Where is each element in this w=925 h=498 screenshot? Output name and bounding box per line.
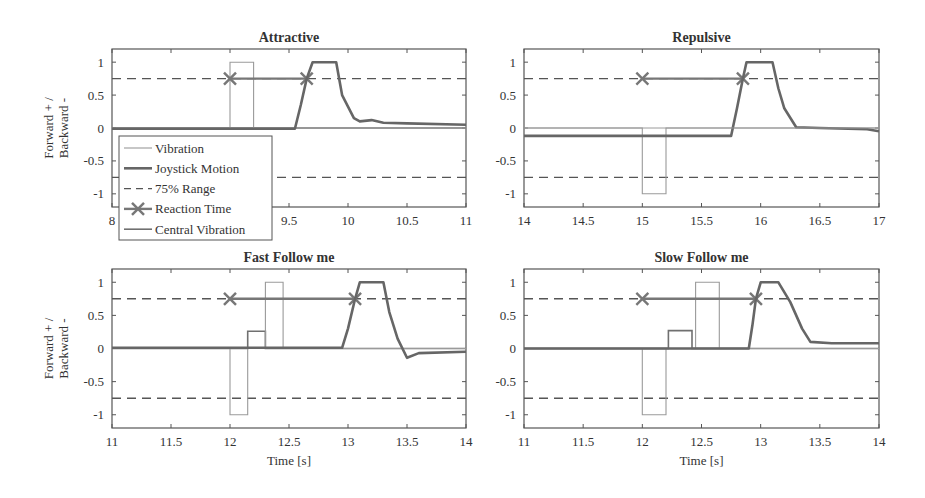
x-tick-label: 13.5 — [396, 434, 419, 449]
y-tick-label: 0 — [510, 341, 517, 356]
y-tick-label: -1 — [505, 407, 516, 422]
x-tick-label: 17 — [873, 213, 887, 228]
y-axis-label: Forward + /Backward - — [41, 317, 71, 379]
y-tick-label: 0.5 — [500, 88, 516, 103]
legend-item-label: Joystick Motion — [155, 161, 240, 176]
x-tick-label: 13.5 — [808, 434, 831, 449]
x-tick-label: 12 — [636, 434, 649, 449]
y-tick-label: -1 — [93, 186, 104, 201]
subplot-repulsive: Repulsive1414.51515.51616.51710.50-0.5-1 — [495, 30, 886, 228]
y-tick-label: -0.5 — [83, 153, 104, 168]
y-tick-label: 0.5 — [88, 88, 104, 103]
x-tick-label: 13 — [754, 434, 767, 449]
subplot-title: Repulsive — [672, 30, 730, 45]
x-axis-label: Time [s] — [267, 453, 311, 468]
y-tick-label: 1 — [98, 55, 105, 70]
y-tick-label: 0.5 — [88, 308, 104, 323]
x-tick-label: 14 — [873, 434, 887, 449]
y-tick-label: 1 — [98, 275, 105, 290]
x-tick-label: 10 — [342, 213, 355, 228]
figure: Attractive88.599.51010.51110.50-0.5-1For… — [0, 0, 925, 498]
y-tick-label: -1 — [93, 407, 104, 422]
y-tick-label: 0.5 — [500, 308, 516, 323]
svg-text:Forward + /: Forward + / — [41, 317, 56, 379]
subplot-fast-follow-me: Fast Follow me1111.51212.51313.51410.50-… — [41, 250, 473, 468]
y-tick-label: -0.5 — [495, 153, 516, 168]
x-tick-label: 14 — [460, 434, 474, 449]
x-tick-label: 11 — [460, 213, 473, 228]
x-tick-label: 8 — [109, 213, 116, 228]
x-axis-label: Time [s] — [680, 453, 724, 468]
x-tick-label: 15.5 — [690, 213, 713, 228]
subplot-title: Slow Follow me — [654, 250, 748, 265]
y-tick-label: -1 — [505, 186, 516, 201]
subplot-slow-follow-me: Slow Follow me1111.51212.51313.51410.50-… — [495, 250, 886, 468]
subplot-title: Fast Follow me — [244, 250, 335, 265]
x-tick-label: 14 — [518, 213, 532, 228]
y-tick-label: 1 — [510, 275, 517, 290]
x-tick-label: 12.5 — [278, 434, 301, 449]
x-tick-label: 14.5 — [572, 213, 595, 228]
x-tick-label: 12 — [224, 434, 237, 449]
legend: VibrationJoystick Motion75% RangeReactio… — [119, 136, 272, 240]
x-tick-label: 11.5 — [160, 434, 182, 449]
x-tick-label: 16.5 — [808, 213, 831, 228]
x-tick-label: 12.5 — [690, 434, 713, 449]
svg-text:Backward -: Backward - — [56, 318, 71, 378]
svg-text:Forward + /: Forward + / — [41, 97, 56, 159]
chart-canvas: Attractive88.599.51010.51110.50-0.5-1For… — [0, 0, 925, 498]
y-tick-label: 0 — [510, 121, 517, 136]
legend-item-label: 75% Range — [155, 181, 216, 196]
y-tick-label: -0.5 — [495, 374, 516, 389]
x-tick-label: 16 — [754, 213, 768, 228]
x-tick-label: 15 — [636, 213, 649, 228]
x-tick-label: 13 — [342, 434, 355, 449]
x-tick-label: 9.5 — [281, 213, 297, 228]
x-tick-label: 11.5 — [572, 434, 594, 449]
x-tick-label: 11 — [106, 434, 119, 449]
legend-item-label: Central Vibration — [155, 222, 246, 237]
y-axis-label: Forward + /Backward - — [41, 97, 71, 159]
legend-item-label: Vibration — [155, 141, 205, 156]
y-tick-label: 1 — [510, 55, 517, 70]
svg-text:Backward -: Backward - — [56, 98, 71, 158]
y-tick-label: 0 — [98, 341, 105, 356]
x-tick-label: 10.5 — [396, 213, 419, 228]
y-tick-label: 0 — [98, 121, 105, 136]
x-tick-label: 11 — [518, 434, 531, 449]
legend-item-label: Reaction Time — [155, 201, 231, 216]
subplot-title: Attractive — [259, 30, 320, 45]
y-tick-label: -0.5 — [83, 374, 104, 389]
